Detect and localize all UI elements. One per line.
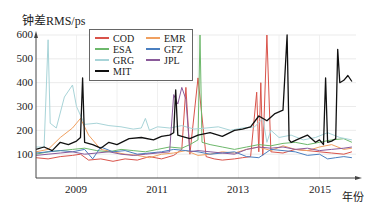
legend-label: COD: [113, 33, 134, 44]
y-tick-200: 200: [0, 125, 33, 136]
y-axis-arrow-icon: [34, 31, 38, 38]
legend-swatch-emr: [146, 37, 160, 38]
legend-label: ESA: [113, 44, 132, 55]
legend-swatch-mit: [95, 70, 109, 71]
legend-label: EMR: [164, 33, 186, 44]
legend-item-cod: COD: [95, 33, 134, 43]
y-axis-label: 钟差RMS/ps: [22, 11, 85, 29]
x-tick-2009: 2009: [65, 183, 87, 195]
legend-item-emr: EMR: [146, 33, 186, 43]
legend-item-mit: MIT: [95, 66, 131, 76]
x-axis-arrow-icon: [355, 176, 362, 180]
legend-item-jpl: JPL: [146, 55, 180, 65]
x-axis-label: 年份: [342, 188, 364, 204]
y-tick-600: 600: [0, 29, 33, 40]
legend-swatch-jpl: [146, 59, 160, 60]
y-tick-100: 100: [0, 149, 33, 160]
x-tick-2013: 2013: [227, 183, 249, 195]
y-tick-400: 400: [0, 77, 33, 88]
legend-label: GRG: [113, 55, 134, 66]
legend: COD EMR ESA GFZ GRG JPL MIT: [89, 29, 193, 81]
legend-label: JPL: [164, 55, 180, 66]
legend-item-esa: ESA: [95, 44, 132, 54]
y-tick-300: 300: [0, 101, 33, 112]
legend-item-grg: GRG: [95, 55, 134, 65]
legend-swatch-esa: [95, 48, 109, 49]
x-tick-2011: 2011: [146, 183, 168, 195]
x-tick-2015: 2015: [309, 183, 331, 195]
legend-label: GFZ: [164, 44, 183, 55]
legend-swatch-gfz: [146, 48, 160, 49]
series-lines: [36, 35, 352, 161]
series-line-mit: [36, 35, 352, 151]
legend-swatch-grg: [95, 59, 109, 60]
y-tick-500: 500: [0, 53, 33, 64]
legend-item-gfz: GFZ: [146, 44, 183, 54]
legend-swatch-cod: [95, 37, 109, 38]
legend-label: MIT: [113, 66, 131, 77]
